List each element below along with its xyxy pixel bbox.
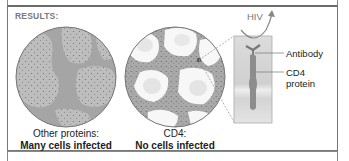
cd4-label: CD4 [286,67,305,78]
protein-label: protein [286,78,315,89]
left-caption: Other proteins: Many cells infected [16,128,116,152]
right-caption-line2: No cells infected [125,140,225,152]
right-circle-protected [120,20,230,140]
inset-panel [234,10,275,123]
antibody-label: Antibody [286,48,323,59]
right-caption: CD4: No cells infected [125,128,225,152]
left-circle-infected [10,20,130,140]
hiv-label: HIV [247,11,263,22]
right-caption-line1: CD4: [125,128,225,140]
left-caption-line1: Other proteins: [16,128,116,140]
left-caption-line2: Many cells infected [16,140,116,152]
